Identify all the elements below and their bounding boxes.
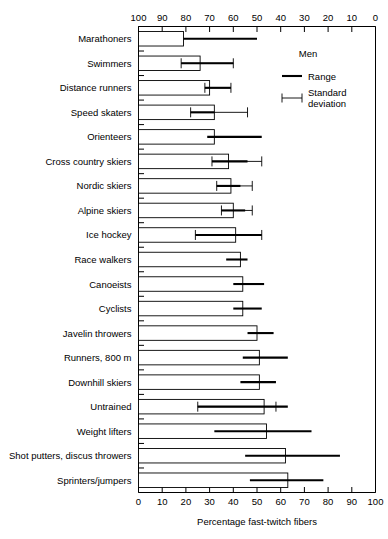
category-label: Javelin throwers xyxy=(63,328,132,339)
bar xyxy=(139,32,184,47)
category-label: Orienteers xyxy=(87,131,132,142)
bar xyxy=(139,350,260,365)
x-axis-title: Percentage fast-twitch fibers xyxy=(197,516,317,527)
bottom-axis-tick-label: 60 xyxy=(275,496,286,507)
bottom-axis-tick-label: 50 xyxy=(252,496,263,507)
category-label: Alpine skiers xyxy=(78,205,132,216)
top-axis-tick-label: 70 xyxy=(204,12,215,23)
category-label: Speed skaters xyxy=(71,107,132,118)
category-label: Swimmers xyxy=(87,58,132,69)
top-axis-tick-label: 90 xyxy=(157,12,168,23)
bar xyxy=(139,277,243,292)
bottom-axis-tick-label: 20 xyxy=(181,496,192,507)
bottom-axis-tick-label: 70 xyxy=(299,496,310,507)
bottom-axis-tick-label: 10 xyxy=(157,496,168,507)
bar xyxy=(139,326,258,341)
top-axis-tick-label: 30 xyxy=(299,12,310,23)
top-axis-tick-label: 40 xyxy=(275,12,286,23)
bar xyxy=(139,252,241,267)
bottom-axis-tick-label: 30 xyxy=(204,496,215,507)
top-axis-tick-label: 80 xyxy=(181,12,192,23)
bottom-axis-tick-label: 80 xyxy=(323,496,334,507)
top-axis-tick-label: 0 xyxy=(373,12,378,23)
top-axis-tick-label: 20 xyxy=(323,12,334,23)
bottom-axis-tick-label: 0 xyxy=(136,496,141,507)
bar xyxy=(139,81,210,96)
category-label: Nordic skiers xyxy=(77,180,132,191)
legend-label-range: Range xyxy=(308,71,336,82)
bottom-axis-tick-label: 90 xyxy=(347,496,358,507)
bar xyxy=(139,130,215,145)
category-label: Distance runners xyxy=(60,82,132,93)
top-axis-tick-label: 100 xyxy=(131,12,147,23)
category-label: Cross country skiers xyxy=(45,156,131,167)
category-label: Runners, 800 m xyxy=(64,352,132,363)
legend-label-sd-line1: Standard xyxy=(308,87,347,98)
legend-title: Men xyxy=(299,48,317,59)
category-label: Canoeists xyxy=(89,279,131,290)
category-label: Cyclists xyxy=(99,303,132,314)
category-label: Sprinters/jumpers xyxy=(57,475,132,486)
horizontal-bar-chart: 1009080706050403020100010203040506070809… xyxy=(0,0,388,539)
bar xyxy=(139,301,243,316)
category-label: Weight lifters xyxy=(77,426,132,437)
category-label: Ice hockey xyxy=(86,229,132,240)
category-label: Shot putters, discus throwers xyxy=(9,450,132,461)
bar xyxy=(139,203,234,218)
bottom-axis-tick-label: 100 xyxy=(368,496,384,507)
chart-container: 1009080706050403020100010203040506070809… xyxy=(0,0,388,539)
category-label: Untrained xyxy=(90,401,131,412)
top-axis-tick-label: 10 xyxy=(347,12,358,23)
bottom-axis-tick-label: 40 xyxy=(228,496,239,507)
legend-label-sd-line2: deviation xyxy=(308,98,346,109)
category-label: Race walkers xyxy=(74,254,131,265)
category-label: Downhill skiers xyxy=(68,377,132,388)
top-axis-tick-label: 50 xyxy=(252,12,263,23)
top-axis-tick-label: 60 xyxy=(228,12,239,23)
category-label: Marathoners xyxy=(78,33,132,44)
